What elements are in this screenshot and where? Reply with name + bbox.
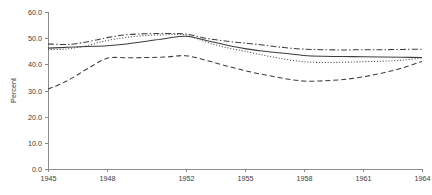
x-tick-label: 1964 bbox=[415, 174, 431, 183]
data-series-group bbox=[48, 33, 422, 89]
y-axis-title: Percent bbox=[9, 78, 18, 103]
x-tick-label: 1945 bbox=[41, 174, 57, 183]
line-chart-figure: 60.050.040.030.020.010.00.0 194519481952… bbox=[0, 0, 432, 195]
x-tick-label: 1952 bbox=[179, 174, 195, 183]
y-tick-label: 30.0 bbox=[28, 87, 42, 96]
series-line-dashed bbox=[48, 56, 422, 90]
y-tick-label: 50.0 bbox=[28, 34, 42, 43]
y-axis-ticks: 60.050.040.030.020.010.00.0 bbox=[28, 8, 48, 174]
x-tick-label: 1958 bbox=[297, 174, 313, 183]
x-axis-ticks: 1945194819521955195819611964 bbox=[41, 169, 431, 183]
series-line-solid bbox=[48, 36, 422, 57]
y-tick-label: 40.0 bbox=[28, 60, 42, 69]
y-tick-label: 10.0 bbox=[28, 139, 42, 148]
x-tick-label: 1955 bbox=[238, 174, 254, 183]
x-tick-label: 1948 bbox=[100, 174, 116, 183]
chart-canvas: 60.050.040.030.020.010.00.0 194519481952… bbox=[0, 0, 432, 195]
series-line-dash-dot bbox=[48, 33, 422, 50]
y-tick-label: 60.0 bbox=[28, 8, 42, 17]
y-tick-label: 20.0 bbox=[28, 113, 42, 122]
axes-group bbox=[48, 12, 422, 170]
y-tick-label: 0.0 bbox=[32, 165, 42, 174]
x-tick-label: 1961 bbox=[356, 174, 372, 183]
